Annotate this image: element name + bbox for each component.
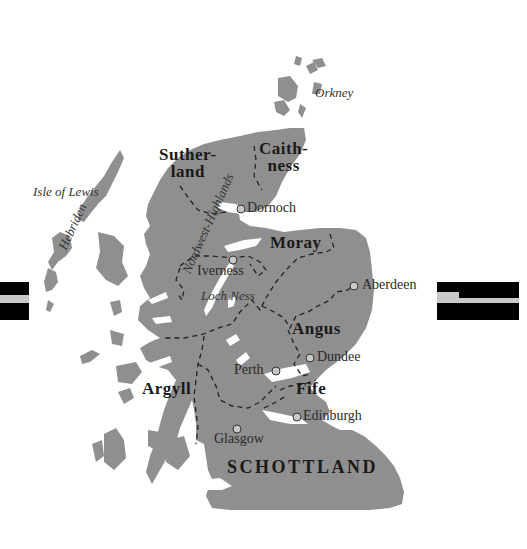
- label-city-iverness: Iverness: [197, 264, 244, 278]
- label-loch-ness: Loch Ness: [201, 289, 255, 302]
- label-region-sutherland: Suther- land: [159, 146, 217, 180]
- label-region-angus: Angus: [292, 320, 341, 337]
- label-region-moray: Moray: [270, 234, 322, 251]
- label-city-aberdeen: Aberdeen: [362, 278, 416, 292]
- city-marker-edinburgh: [293, 413, 301, 421]
- label-region-fife: Fife: [296, 380, 326, 397]
- label-city-dundee: Dundee: [317, 350, 361, 364]
- label-city-dornoch: Dornoch: [247, 201, 296, 215]
- label-region-caithness-line2: ness: [259, 157, 308, 174]
- label-city-edinburgh: Edinburgh: [303, 409, 362, 423]
- city-marker-dundee: [306, 354, 314, 362]
- city-marker-aberdeen: [350, 282, 358, 290]
- label-city-perth: Perth: [234, 363, 264, 377]
- label-region-caithness: Caith- ness: [259, 140, 308, 174]
- label-country: SCHOTTLAND: [227, 458, 378, 476]
- label-region-sutherland-line2: land: [159, 163, 217, 180]
- scotland-map: Orkney Isle of Lewis Hebriden Loch Ness …: [0, 0, 527, 549]
- label-isle-of-lewis: Isle of Lewis: [33, 185, 99, 198]
- label-city-glasgow: Glasgow: [214, 432, 264, 446]
- label-region-caithness-line1: Caith-: [259, 140, 308, 157]
- city-marker-perth: [272, 367, 280, 375]
- label-region-argyll: Argyll: [142, 380, 191, 397]
- city-marker-dornoch: [237, 205, 245, 213]
- label-region-sutherland-line1: Suther-: [159, 146, 217, 163]
- label-orkney: Orkney: [315, 86, 353, 99]
